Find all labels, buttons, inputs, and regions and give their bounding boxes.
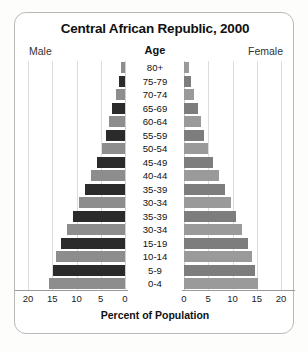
female-bar <box>184 103 198 114</box>
female-bar <box>184 251 252 262</box>
x-tick-label: 10 <box>71 293 82 304</box>
age-group-label: 35-39 <box>128 183 182 197</box>
x-tick-label: 0 <box>181 293 186 304</box>
male-bar <box>79 197 125 208</box>
age-group-label: 45-49 <box>128 156 182 170</box>
male-bar <box>67 224 125 235</box>
female-bar <box>184 130 204 141</box>
female-bar <box>184 143 208 154</box>
pyramid-rows: 80+75-7970-7465-6960-6455-5950-5445-4940… <box>15 61 295 291</box>
female-bar <box>184 278 258 289</box>
female-bar <box>184 197 231 208</box>
male-bar <box>106 130 125 141</box>
age-group-label: 55-59 <box>128 129 182 143</box>
male-bar <box>121 62 125 73</box>
pyramid-row: 15-19 <box>15 237 295 251</box>
pyramid-row: 75-79 <box>15 75 295 89</box>
age-group-label: 30-34 <box>128 223 182 237</box>
male-bar <box>85 184 125 195</box>
age-group-label: 30-34 <box>128 196 182 210</box>
pyramid-row: 10-14 <box>15 250 295 264</box>
x-tick-label: 10 <box>227 293 238 304</box>
male-bar <box>91 170 125 181</box>
age-group-label: 65-69 <box>128 102 182 116</box>
age-group-label: 50-54 <box>128 142 182 156</box>
x-tick-label: 0 <box>122 293 127 304</box>
pyramid-row: 70-74 <box>15 88 295 102</box>
pyramid-row: 45-49 <box>15 156 295 170</box>
pyramid-row: 65-69 <box>15 102 295 116</box>
x-axis-ticks: 2015105005101520 <box>15 293 295 309</box>
age-group-label: 80+ <box>128 61 182 75</box>
female-bar <box>184 89 194 100</box>
age-group-label: 10-14 <box>128 250 182 264</box>
female-bar <box>184 157 213 168</box>
female-bar <box>184 211 236 222</box>
male-bar <box>112 103 125 114</box>
age-group-label: 70-74 <box>128 88 182 102</box>
female-bar <box>184 224 242 235</box>
pyramid-row: 35-39 <box>15 210 295 224</box>
pyramid-row: 30-34 <box>15 196 295 210</box>
female-bar <box>184 170 219 181</box>
pyramid-row: 35-39 <box>15 183 295 197</box>
pyramid-row: 0-4 <box>15 277 295 291</box>
pyramid-row: 50-54 <box>15 142 295 156</box>
chart-title: Central African Republic, 2000 <box>15 21 295 36</box>
pyramid-row: 30-34 <box>15 223 295 237</box>
male-bar <box>119 76 125 87</box>
female-axis-label: Female <box>248 45 283 57</box>
pyramid-row: 5-9 <box>15 264 295 278</box>
female-bar <box>184 116 201 127</box>
x-tick-label: 5 <box>206 293 211 304</box>
male-bar <box>73 211 125 222</box>
pyramid-plot-area: 80+75-7970-7465-6960-6455-5950-5445-4940… <box>15 61 295 291</box>
x-tick-label: 15 <box>47 293 58 304</box>
male-bar <box>53 265 125 276</box>
age-group-label: 35-39 <box>128 210 182 224</box>
age-group-label: 75-79 <box>128 75 182 89</box>
male-bar <box>116 89 125 100</box>
female-bar <box>184 238 248 249</box>
x-axis-label: Percent of Population <box>15 309 295 321</box>
male-bar <box>61 238 125 249</box>
x-tick-label: 15 <box>251 293 262 304</box>
x-tick-label: 20 <box>276 293 287 304</box>
pyramid-row: 80+ <box>15 61 295 75</box>
female-bar <box>184 62 189 73</box>
pyramid-row: 60-64 <box>15 115 295 129</box>
female-bar <box>184 184 225 195</box>
male-bar <box>109 116 125 127</box>
female-bar <box>184 265 255 276</box>
male-bar <box>49 278 125 289</box>
female-bar <box>184 76 191 87</box>
chart-frame: Central African Republic, 2000 Male Age … <box>14 12 294 334</box>
age-group-label: 60-64 <box>128 115 182 129</box>
x-tick-label: 5 <box>98 293 103 304</box>
age-group-label: 40-44 <box>128 169 182 183</box>
age-group-label: 5-9 <box>128 264 182 278</box>
age-group-label: 15-19 <box>128 237 182 251</box>
x-tick-label: 20 <box>23 293 34 304</box>
male-bar <box>56 251 125 262</box>
age-group-label: 0-4 <box>128 277 182 291</box>
pyramid-row: 55-59 <box>15 129 295 143</box>
male-bar <box>97 157 125 168</box>
male-bar <box>102 143 125 154</box>
pyramid-row: 40-44 <box>15 169 295 183</box>
